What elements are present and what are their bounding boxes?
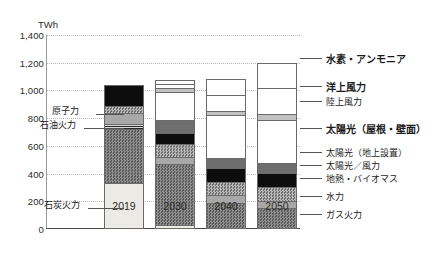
bar-segment-gas-thermal[interactable]	[155, 164, 195, 225]
legend-label: 陸上風力	[326, 95, 362, 108]
legend-leader-line	[300, 58, 322, 59]
x-axis-tick-label: 2050	[247, 200, 307, 212]
legend-label: 地熱・バイオマス	[326, 172, 398, 185]
legend-label: 水力	[326, 190, 344, 203]
y-axis-unit-label: TWh	[38, 19, 58, 30]
bar-segment-solar-wind[interactable]	[104, 85, 144, 106]
y-axis-tick-label: 600	[0, 140, 44, 151]
callout-label-nuclear: 原子力	[52, 104, 79, 117]
bar-segment-offshore-wind[interactable]	[206, 95, 246, 111]
bar-segment-geothermal-biomass[interactable]	[257, 187, 297, 200]
bar-segment-geothermal-biomass[interactable]	[155, 144, 195, 156]
legend-label: 水素・アンモニア	[326, 51, 406, 66]
bar-segment-gas-thermal[interactable]	[104, 129, 144, 183]
y-axis-tick-label: 0	[0, 224, 44, 235]
y-axis-tick-label: 400	[0, 168, 44, 179]
legend-label: 太陽光（地上設置）	[326, 146, 407, 159]
legend-label: 太陽光／風力	[326, 159, 380, 172]
y-axis-tick-label: 200	[0, 196, 44, 207]
bar-segment-solar-ground[interactable]	[206, 158, 246, 168]
legend-item-hydro[interactable]: 水力	[300, 190, 344, 203]
bar-segment-offshore-wind[interactable]	[257, 88, 297, 114]
bar-segment-solar-ground[interactable]	[155, 120, 195, 133]
bar-segment-solar-roof-wall[interactable]	[206, 115, 246, 158]
callout-leader-nuclear	[96, 114, 124, 115]
bar-segment-solar-wind[interactable]	[155, 133, 195, 145]
bar-segment-solar-roof-wall[interactable]	[257, 120, 297, 163]
legend-item-gas-thermal[interactable]: ガス火力	[300, 208, 362, 221]
gridline	[46, 35, 300, 36]
legend-leader-line	[300, 214, 322, 215]
legend-item-solar-roof-wall[interactable]: 太陽光（屋根・壁面）	[300, 121, 426, 136]
legend-item-geothermal-biomass[interactable]: 地熱・バイオマス	[300, 172, 398, 185]
legend-leader-line	[300, 101, 322, 102]
callout-label-oil-thermal: 石油火力	[40, 118, 76, 131]
legend-leader-line	[300, 152, 322, 153]
legend-label: 太陽光（屋根・壁面）	[326, 121, 426, 136]
y-axis-labels: 02004006008001,0001,2001,400	[0, 35, 44, 229]
legend-item-solar-wind[interactable]: 太陽光／風力	[300, 159, 380, 172]
legend-label: 洋上風力	[326, 79, 366, 94]
y-axis-tick-label: 1,400	[0, 30, 44, 41]
bar-segment-hydro[interactable]	[155, 157, 195, 164]
legend-leader-line	[300, 128, 322, 129]
bar-segment-hydrogen-ammonia[interactable]	[206, 79, 246, 96]
y-axis-tick-label: 1,200	[0, 57, 44, 68]
bar-segment-solar-wind[interactable]	[257, 173, 297, 188]
legend-label: ガス火力	[326, 208, 362, 221]
bar-segment-geothermal-biomass[interactable]	[104, 106, 144, 114]
callout-label-coal-thermal: 石炭火力	[44, 198, 80, 211]
legend-item-solar-ground[interactable]: 太陽光（地上設置）	[300, 146, 407, 159]
legend-item-offshore-wind[interactable]: 洋上風力	[300, 79, 366, 94]
callout-leader-coal-thermal	[88, 208, 124, 209]
legend-item-onshore-wind[interactable]: 陸上風力	[300, 95, 362, 108]
legend-leader-line	[300, 196, 322, 197]
y-axis-tick-label: 1,000	[0, 85, 44, 96]
legend-leader-line	[300, 86, 322, 87]
bar-segment-hydrogen-ammonia[interactable]	[257, 63, 297, 89]
legend-leader-line	[300, 178, 322, 179]
bar-segment-solar-wind[interactable]	[206, 168, 246, 182]
legend-item-hydrogen-ammonia[interactable]: 水素・アンモニア	[300, 51, 406, 66]
bar-segment-solar-ground[interactable]	[257, 163, 297, 173]
bar-segment-coal-thermal[interactable]	[155, 225, 195, 229]
y-axis-tick-label: 800	[0, 113, 44, 124]
chart-legend: 水素・アンモニア洋上風力陸上風力太陽光（屋根・壁面）太陽光（地上設置）太陽光／風…	[300, 0, 441, 253]
legend-leader-line	[300, 165, 322, 166]
bar-segment-solar-roof-wall[interactable]	[155, 92, 195, 120]
callout-leader-oil-thermal	[84, 128, 124, 129]
chart-container: TWh 02004006008001,0001,2001,400 2019203…	[0, 0, 441, 253]
bar-segment-geothermal-biomass[interactable]	[206, 182, 246, 195]
